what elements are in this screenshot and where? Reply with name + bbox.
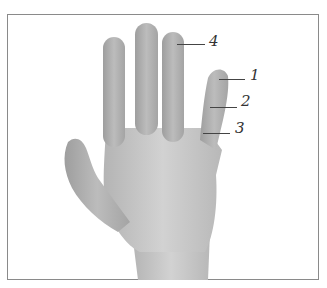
index-finger (103, 37, 125, 147)
label-3: 3 (235, 121, 245, 136)
label-2: 2 (241, 94, 251, 109)
leader-line-2 (210, 107, 237, 108)
hand-illustration (0, 0, 327, 288)
leader-line-4 (177, 44, 205, 45)
palm (104, 128, 222, 252)
little-finger (200, 69, 228, 150)
middle-finger (135, 23, 158, 135)
leader-line-3 (203, 133, 230, 134)
leader-line-1 (219, 79, 245, 80)
label-1: 1 (250, 68, 260, 83)
ring-finger (162, 32, 184, 142)
label-4: 4 (209, 34, 219, 49)
